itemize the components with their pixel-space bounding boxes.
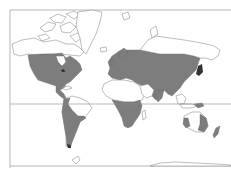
range-new-zealand [213,126,220,138]
alaska-north-canada [12,38,84,56]
southeast-asia-islands [176,94,186,104]
arctic-canada-islands [38,11,82,42]
range-india [154,90,164,102]
range-north-america [28,53,82,90]
antarctica-coast [150,162,231,166]
world-map [0,0,231,170]
madagascar [142,110,146,120]
greenland [76,10,102,54]
iceland [100,47,107,52]
antarctic-peninsula [72,156,80,164]
svalbard [122,12,130,20]
